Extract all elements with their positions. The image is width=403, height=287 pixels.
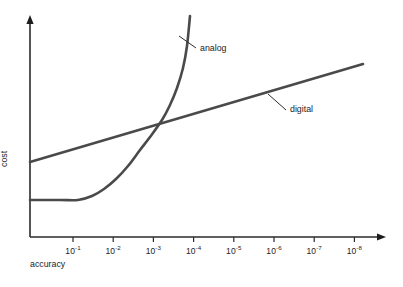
series-line-analog [30,16,190,200]
x-axis-arrowhead [377,233,386,240]
series-label-digital: digital [290,104,313,114]
x-axis-tick-label: 10-6 [266,246,281,256]
data-series-group [30,16,363,200]
y-axis-arrowhead [26,15,33,24]
x-axis-tick-label: 10-2 [106,246,121,256]
x-axis-tick-label: 10-8 [347,246,362,256]
x-axis-tick-label: 10-7 [307,246,322,256]
chart-figure: 10-110-210-310-410-510-610-710-8 accurac… [0,0,403,287]
x-axis-tick-label: 10-1 [65,246,80,256]
x-axis-tick-label: 10-3 [146,246,161,256]
annotation-leader-lines [179,36,286,110]
series-line-digital [30,64,363,162]
x-axis-tick-label: 10-4 [186,246,201,256]
y-axis-title: cost [0,151,9,167]
x-axis-tick-label: 10-5 [226,246,241,256]
leader-line-digital [268,94,286,110]
x-axis-title: accuracy [30,259,65,269]
series-label-analog: analog [200,43,226,53]
